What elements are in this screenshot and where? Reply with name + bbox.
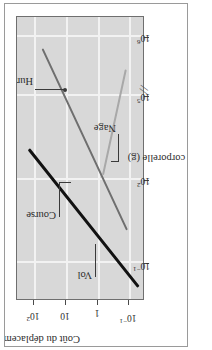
gridline-vertical bbox=[17, 178, 143, 180]
plot-area: Humain Course Vol Nage bbox=[16, 16, 144, 300]
rotated-chart-container: Humain Course Vol Nage 10−1 bbox=[6, 4, 188, 346]
annotation-humain: Humain bbox=[16, 76, 33, 87]
annotation-nage: Nage bbox=[94, 123, 116, 134]
nage-leader-line-tick bbox=[111, 161, 119, 162]
x-axis-tick-label: 105 bbox=[150, 91, 162, 104]
x-axis-tick-label: 102 bbox=[150, 175, 162, 188]
x-axis-label: Masse corporelle (g) bbox=[166, 16, 177, 300]
humain-leader-line bbox=[35, 89, 64, 90]
y-axis-tick-label: 10−1 bbox=[122, 310, 134, 327]
x-axis-tick-label: 10−1 bbox=[150, 256, 162, 273]
gridline-horizontal bbox=[66, 17, 68, 299]
x-axis-tick-label: 106 bbox=[150, 32, 162, 45]
y-axis-tick bbox=[128, 300, 129, 305]
annotation-course: Course bbox=[26, 210, 56, 221]
y-axis-tick-label: 102 bbox=[27, 310, 39, 323]
y-axis-label: Coût du déplacement (J/kg/m) bbox=[4, 334, 80, 345]
gridline-vertical bbox=[17, 94, 143, 96]
course-leader-line-tick bbox=[59, 182, 71, 183]
y-axis-tick-label: 10 bbox=[60, 310, 70, 320]
y-axis-tick bbox=[33, 300, 34, 305]
nage-leader-line bbox=[118, 134, 119, 162]
series-line-course bbox=[42, 48, 128, 230]
y-axis-tick bbox=[65, 300, 66, 305]
vol-leader-line bbox=[95, 244, 96, 277]
gridline-horizontal bbox=[98, 17, 100, 299]
annotation-vol: Vol bbox=[78, 270, 92, 281]
y-axis-tick-label: 1 bbox=[92, 310, 102, 315]
chart-canvas: Humain Course Vol Nage 10−1 bbox=[6, 4, 188, 346]
course-leader-line bbox=[59, 183, 60, 217]
gridline-vertical bbox=[17, 35, 143, 37]
y-axis-tick bbox=[97, 300, 98, 305]
figure-frame: Humain Course Vol Nage 10−1 bbox=[4, 3, 188, 347]
gridline-vertical bbox=[17, 261, 143, 263]
